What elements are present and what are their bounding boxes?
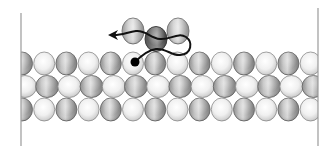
light-substrate-atom xyxy=(236,76,259,98)
row-2 xyxy=(14,76,326,98)
light-substrate-atom xyxy=(147,76,170,98)
atom-shading xyxy=(56,98,77,121)
atom-shading xyxy=(145,52,166,75)
substrate-lattice xyxy=(12,52,326,121)
light-substrate-atom xyxy=(280,76,303,98)
atom-shading xyxy=(278,52,299,75)
atom-shading xyxy=(167,18,189,44)
surface-diffusion-diagram xyxy=(0,0,336,149)
light-substrate-atom xyxy=(256,52,277,75)
atom-shading xyxy=(36,76,59,98)
atom-shading xyxy=(12,52,33,75)
atom-shading xyxy=(234,98,255,121)
light-substrate-atom xyxy=(78,52,99,75)
atom-shading xyxy=(189,98,210,121)
row-3 xyxy=(12,98,322,121)
light-substrate-atom xyxy=(78,98,99,121)
atom-shading xyxy=(12,98,33,121)
light-substrate-atom xyxy=(34,52,55,75)
light-substrate-atom xyxy=(256,98,277,121)
light-substrate-atom xyxy=(211,98,232,121)
row-1 xyxy=(12,52,322,75)
atom-shading xyxy=(145,98,166,121)
atom-shading xyxy=(100,98,121,121)
diagram-canvas xyxy=(0,0,336,149)
light-substrate-atom xyxy=(34,98,55,121)
light-substrate-atom xyxy=(123,98,144,121)
atom-shading xyxy=(80,76,103,98)
light-substrate-atom xyxy=(58,76,81,98)
atom-shading xyxy=(100,52,121,75)
atom-shading xyxy=(125,76,148,98)
start-marker-dot xyxy=(131,58,140,67)
atom-shading xyxy=(189,52,210,75)
atom-shading xyxy=(169,76,192,98)
light-substrate-atom xyxy=(14,76,37,98)
atom-shading xyxy=(213,76,236,98)
light-substrate-atom xyxy=(191,76,214,98)
atom-shading xyxy=(302,76,325,98)
atom-shading xyxy=(56,52,77,75)
atom-shading xyxy=(278,98,299,121)
atom-shading xyxy=(258,76,281,98)
atom-shading xyxy=(234,52,255,75)
light-substrate-atom xyxy=(167,98,188,121)
light-substrate-atom xyxy=(102,76,125,98)
light-substrate-atom xyxy=(211,52,232,75)
